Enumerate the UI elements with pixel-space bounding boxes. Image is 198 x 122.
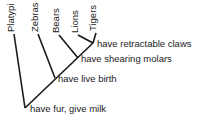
cladogram-figure: Platypi Zebras Bears Lions Tigers have r… (0, 0, 198, 122)
taxon-label-platypi: Platypi (5, 3, 16, 32)
taxon-label-lions: Lions (69, 10, 80, 33)
branch-tigers (93, 33, 96, 43)
taxon-label-bears: Bears (50, 8, 61, 33)
taxon-label-zebras: Zebras (29, 2, 40, 32)
node-label-shearing-molars: have shearing molars (81, 53, 172, 64)
taxon-label-tigers: Tigers (87, 5, 98, 31)
node-label-retractable-claws: have retractable claws (97, 38, 192, 49)
branch-platypi (14, 34, 25, 108)
branch-lions (78, 35, 93, 43)
cladogram-canvas: Platypi Zebras Bears Lions Tigers have r… (0, 0, 198, 122)
node-label-live-birth: have live birth (58, 73, 117, 84)
branch-bears (59, 35, 78, 58)
node-label-fur-give-milk: have fur, give milk (30, 103, 106, 114)
branch-zebras (38, 34, 55, 78)
